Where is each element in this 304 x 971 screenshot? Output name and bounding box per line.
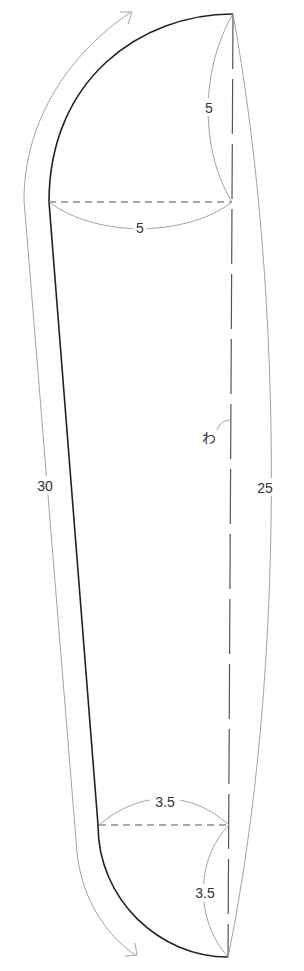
pattern-outline xyxy=(49,14,233,957)
pattern-diagram: 5 5 わ 30 25 3.5 3.5 xyxy=(0,0,304,971)
arrow-head-bottom-icon xyxy=(125,943,137,956)
bottom-vertical-label: 3.5 xyxy=(195,885,215,901)
fold-line xyxy=(228,14,233,957)
right-length-label: 25 xyxy=(257,480,273,496)
top-vertical-label: 5 xyxy=(205,100,213,116)
top-horizontal-label: 5 xyxy=(136,220,144,236)
fold-label: わ xyxy=(202,430,216,446)
fold-marker-arc xyxy=(217,420,231,430)
left-length-label: 30 xyxy=(37,478,53,494)
bottom-horizontal-label: 3.5 xyxy=(155,794,175,810)
